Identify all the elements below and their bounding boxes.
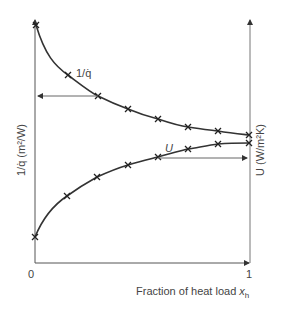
origin-tick-label: 0 [28,268,34,280]
x-axis-label: Fraction of heat load xh [136,285,249,300]
x-end-tick-label: 1 [246,268,252,280]
markers-overall-coefficient [32,140,252,240]
curve-inverse-heat-flux [36,25,249,135]
left-y-axis-label: 1/q̇ (m²/W) [15,124,27,176]
curve-label-inverse-heat-flux: 1/q̇ [76,67,91,79]
right-y-axis-label: U (W/m²K) [254,124,266,176]
curve-overall-coefficient [35,143,249,237]
chart-canvas: 1/q̇ U 0 1 1/q̇ (m²/W) U (W/m²K) Fractio… [0,0,286,310]
markers-inverse-heat-flux [33,22,252,138]
curve-label-u: U [165,142,173,154]
